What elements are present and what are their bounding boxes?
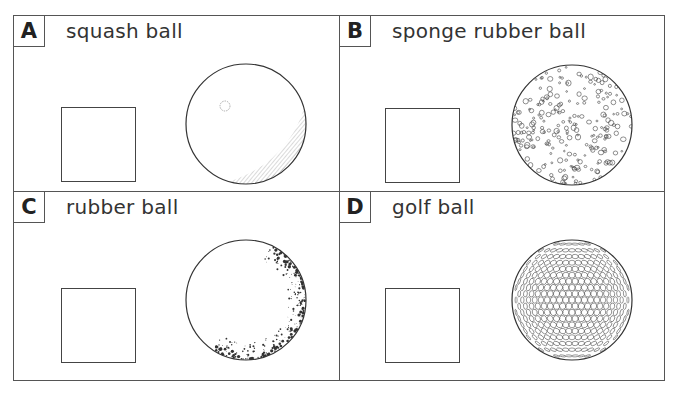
card-label: rubber ball (66, 195, 179, 219)
rubber-ball-icon (184, 238, 308, 362)
card-label: golf ball (392, 195, 475, 219)
sponge-rubber-ball-icon (510, 63, 634, 187)
card-label: sponge rubber ball (392, 19, 586, 43)
card-letter: D (340, 192, 371, 223)
answer-box[interactable] (61, 107, 136, 182)
card-d: D golf ball (340, 192, 664, 380)
answer-box[interactable] (385, 108, 460, 183)
ball-cards-grid: A squash ball B sponge rubber ball (13, 15, 665, 381)
squash-ball-icon (184, 62, 308, 186)
card-letter: A (14, 16, 45, 47)
answer-box[interactable] (61, 288, 136, 363)
golf-ball-icon (510, 238, 634, 362)
card-letter: C (14, 192, 45, 223)
answer-box[interactable] (385, 288, 460, 363)
card-label: squash ball (66, 19, 183, 43)
card-letter: B (340, 16, 371, 47)
card-c: C rubber ball (14, 192, 340, 380)
card-b: B sponge rubber ball (340, 16, 664, 192)
card-a: A squash ball (14, 16, 340, 192)
